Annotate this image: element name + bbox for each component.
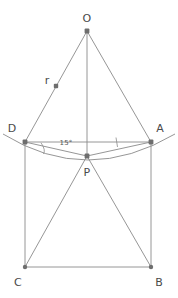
vertex-dot-O: [85, 29, 90, 34]
vertex-dot-A: [149, 140, 154, 145]
vertex-label-O: O: [83, 13, 92, 24]
vertex-label-C: C: [14, 277, 22, 288]
edge-P-B: [87, 156, 151, 267]
radius-marker-dot: [54, 84, 58, 88]
edge-D-P: [25, 142, 87, 156]
vertex-dot-group: [23, 29, 154, 270]
vertex-label-A: A: [156, 123, 164, 134]
vertex-dot-D: [23, 140, 28, 145]
geometry-figure: O D A P C B r 15°: [0, 0, 178, 298]
vertex-dot-C: [23, 265, 27, 269]
radius-label-r: r: [45, 75, 50, 86]
vertex-dot-B: [149, 265, 153, 269]
diagram-canvas: [0, 0, 178, 298]
vertex-dot-P: [85, 154, 90, 159]
vertex-label-D: D: [8, 123, 17, 134]
angle-label-15deg: 15°: [59, 140, 72, 147]
edge-P-A: [87, 142, 151, 156]
edge-P-C: [25, 156, 87, 267]
vertex-label-B: B: [155, 277, 163, 288]
vertex-label-P: P: [84, 167, 91, 178]
edge-O-A: [87, 31, 151, 142]
